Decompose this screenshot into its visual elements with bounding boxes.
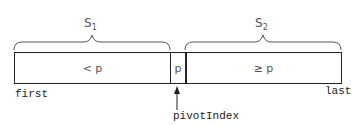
pivot-arrow-head	[174, 86, 180, 94]
partition-diagram: S1 S2 < p p ≥ p first last pivotIndex	[0, 0, 353, 125]
segment-label: < p	[83, 62, 103, 75]
set-s2-label: S2	[255, 16, 268, 32]
segment-pivot: p	[170, 52, 187, 84]
segment-label: ≥ p	[254, 62, 274, 75]
segment-less-than-pivot: < p	[14, 52, 171, 84]
set-s1-label: S1	[84, 16, 97, 32]
pivot-index-label: pivotIndex	[173, 110, 239, 122]
first-label: first	[15, 88, 48, 100]
last-label: last	[325, 85, 351, 97]
s2-brace	[185, 35, 341, 50]
s1-brace	[14, 35, 170, 50]
segment-label: p	[175, 62, 182, 75]
segment-greater-equal-pivot: ≥ p	[185, 52, 342, 84]
